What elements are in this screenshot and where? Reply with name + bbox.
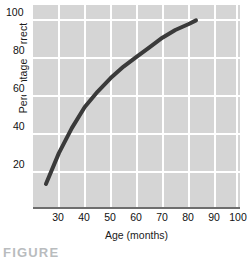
y-tick-label: 60 bbox=[11, 82, 28, 95]
x-tick-label: 30 bbox=[46, 212, 70, 223]
plot-area bbox=[33, 5, 240, 207]
x-tick-label: 90 bbox=[202, 212, 226, 223]
data-curve bbox=[33, 5, 240, 207]
x-tick-label: 100 bbox=[226, 212, 247, 223]
x-tick-label: 70 bbox=[150, 212, 174, 223]
x-tick-label: 80 bbox=[176, 212, 200, 223]
x-axis-title: Age (months) bbox=[33, 229, 240, 241]
y-tick-label: 40 bbox=[11, 120, 28, 133]
x-tick-label: 60 bbox=[124, 212, 148, 223]
x-tick-label: 40 bbox=[72, 212, 96, 223]
y-tick-label: 80 bbox=[11, 44, 28, 57]
x-tick-label: 50 bbox=[98, 212, 122, 223]
figure-panel: Percentage correct 100 80 60 40 20 30 40… bbox=[0, 0, 247, 257]
x-axis-line bbox=[33, 207, 240, 209]
figure-caption: FIGURE bbox=[3, 246, 143, 257]
y-tick-label: 100 bbox=[4, 6, 27, 19]
y-tick-label: 20 bbox=[11, 158, 28, 171]
